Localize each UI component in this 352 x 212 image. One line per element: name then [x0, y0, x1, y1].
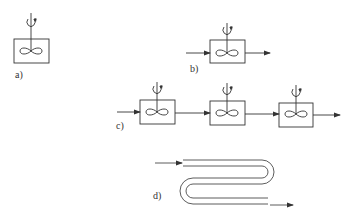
panel-c-label: c): [116, 121, 124, 131]
panel-c: [117, 82, 340, 127]
stirrer-icon: [20, 13, 42, 54]
stirrer-icon: [216, 23, 238, 56]
panel-b-label: b): [190, 64, 198, 74]
reactor-diagram: [0, 0, 352, 212]
stirrer-icon: [146, 82, 168, 115]
panel-b: [186, 23, 270, 63]
stirrer-icon: [216, 83, 238, 116]
panel-d: [155, 160, 293, 205]
serpentine-tube-icon: [180, 160, 274, 204]
panel-a-label: a): [15, 70, 23, 80]
stirrer-icon: [285, 85, 307, 117]
panel-d-label: d): [153, 191, 161, 201]
tank-icon: [210, 40, 245, 63]
panel-a: [14, 13, 49, 63]
